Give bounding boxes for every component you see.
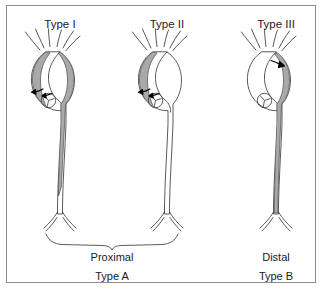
figure-artwork: Type I	[0, 0, 324, 298]
distal-group-label-line1: Distal	[262, 251, 290, 263]
aortic-dissection-figure: Type I	[0, 0, 324, 298]
proximal-group-label-line2: Type A	[95, 270, 129, 282]
panel-title-type-1: Type I	[44, 18, 75, 30]
panel-type-2: Type II	[133, 18, 188, 231]
arch-branch-vessels-1	[26, 29, 81, 51]
panel-title-type-3: Type III	[257, 18, 295, 30]
arch-branch-vessels-3	[242, 29, 297, 51]
iliac-bifurcation-3	[260, 212, 292, 231]
proximal-group-brace	[46, 234, 178, 250]
panel-type-1: Type I	[26, 18, 81, 231]
distal-group-label-line2: Type B	[259, 270, 293, 282]
proximal-group-label-line1: Proximal	[91, 251, 134, 263]
iliac-bifurcation-2	[151, 212, 183, 231]
arch-branch-vessels-2	[133, 29, 188, 51]
panel-type-3: Type III	[242, 18, 297, 231]
iliac-bifurcation-1	[44, 212, 76, 231]
panel-title-type-2: Type II	[150, 18, 185, 30]
